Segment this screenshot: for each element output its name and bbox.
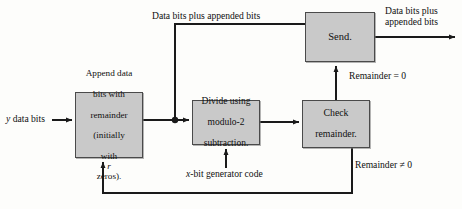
append-line-5a: with bbox=[84, 151, 135, 161]
label-input-rest: data bits bbox=[10, 113, 45, 124]
node-append-data-bits[interactable]: Append databits withremainder(initiallyw… bbox=[75, 92, 143, 158]
label-generator-code: x-bit generator code bbox=[186, 168, 263, 179]
label-generator-rest: -bit generator code bbox=[190, 168, 262, 179]
node-divide-label: Divide usingmodulo-2subtraction. bbox=[198, 96, 255, 149]
append-variable-r: r bbox=[84, 161, 135, 171]
append-line-4: (initially bbox=[84, 130, 135, 140]
node-send-label: Send. bbox=[326, 31, 354, 43]
label-remainder-zero: Remainder = 0 bbox=[349, 70, 406, 81]
check-line-1: Check bbox=[313, 108, 359, 119]
label-top-path: Data bits plus appended bits bbox=[152, 10, 260, 21]
node-send[interactable]: Send. bbox=[305, 12, 375, 62]
node-append-label: Append databits withremainder(initiallyw… bbox=[82, 68, 137, 181]
label-remainder-nonzero: Remainder ≠ 0 bbox=[355, 159, 412, 170]
label-input: y data bits bbox=[6, 113, 45, 124]
node-check-remainder[interactable]: Checkremainder. bbox=[302, 100, 370, 148]
label-output-line-2: appended bits bbox=[385, 16, 438, 27]
append-line-5c: zeros). bbox=[84, 171, 135, 181]
node-check-label: Checkremainder. bbox=[311, 108, 361, 141]
divide-line-1: Divide using bbox=[200, 96, 253, 107]
junction-dot bbox=[172, 117, 178, 123]
label-output: Data bits plusappended bits bbox=[385, 5, 438, 27]
crc-flow-diagram: Send. Append databits withremainder(init… bbox=[0, 0, 462, 209]
append-line-3: remainder bbox=[84, 110, 135, 120]
divide-line-2: modulo-2 bbox=[200, 117, 253, 128]
node-divide-modulo2[interactable]: Divide usingmodulo-2subtraction. bbox=[192, 100, 260, 145]
append-line-2: bits with bbox=[84, 89, 135, 99]
label-output-line-1: Data bits plus bbox=[385, 5, 438, 16]
check-line-2: remainder. bbox=[313, 129, 359, 140]
divide-line-3: subtraction. bbox=[200, 138, 253, 149]
append-line-1: Append data bbox=[84, 68, 135, 78]
